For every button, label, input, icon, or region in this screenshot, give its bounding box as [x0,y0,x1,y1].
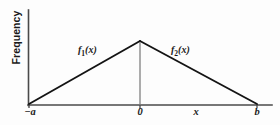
f1-argument: (x) [85,44,97,55]
y-axis-label: Frequency [10,2,23,74]
f2-argument: (x) [178,44,190,55]
series-line-f2 [140,41,257,104]
series-annotation-f2: f2(x) [171,44,190,58]
series-annotation-f1: f1(x) [78,44,97,58]
x-tick-label-zero: 0 [130,106,150,117]
x-tick-label-minus-a: −a [19,106,41,117]
triangular-distribution-figure: Frequency −a 0 x b f1(x) f2(x) [0,0,280,125]
x-axis-variable-label: x [187,106,205,117]
x-tick-label-b: b [248,106,266,117]
